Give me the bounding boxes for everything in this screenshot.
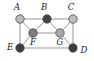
node-layer	[16, 15, 77, 52]
graph-diagram-figure: ABCFGED	[0, 0, 94, 61]
vertex-label-e: E	[7, 43, 13, 52]
vertex-label-g: G	[57, 38, 64, 47]
graph-vertex-c	[69, 15, 77, 23]
vertex-label-c: C	[68, 3, 75, 12]
graph-vertex-d	[69, 44, 77, 52]
vertex-label-b: B	[41, 3, 47, 12]
graph-vertex-e	[16, 44, 24, 52]
graph-vertex-b	[43, 15, 51, 23]
vertex-label-a: A	[14, 3, 20, 12]
graph-vertex-a	[16, 15, 24, 23]
vertex-label-d: D	[81, 46, 88, 55]
vertex-label-f: F	[30, 38, 36, 47]
